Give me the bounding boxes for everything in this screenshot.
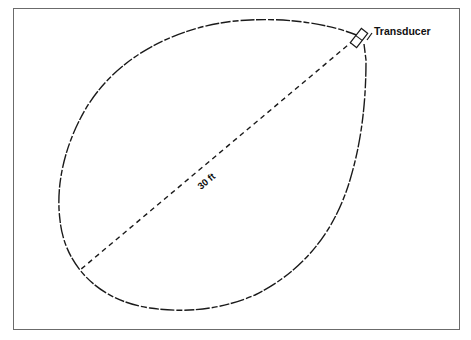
transducer-icon xyxy=(350,28,367,47)
distance-line xyxy=(80,40,354,270)
beam-lobe-outline xyxy=(59,20,366,311)
transducer-label: Transducer xyxy=(374,25,431,37)
distance-label: 30 ft xyxy=(195,170,218,192)
beam-pattern-diagram: Transducer 30 ft xyxy=(0,0,471,340)
